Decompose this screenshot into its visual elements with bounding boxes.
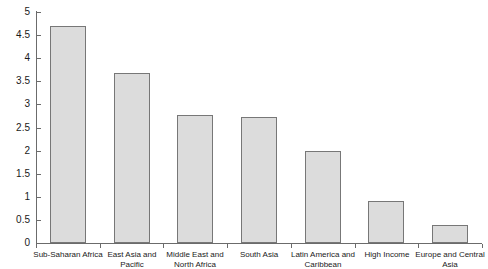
bar	[368, 201, 404, 243]
x-axis-category-label: High Income	[351, 250, 423, 260]
x-axis-category-label: Latin America and Caribbean	[287, 250, 359, 269]
bar	[305, 151, 341, 243]
y-axis-tick	[37, 81, 41, 82]
y-axis-tick	[37, 243, 41, 244]
y-axis-tick	[37, 104, 41, 105]
x-axis-category-label: East Asia and Pacific	[96, 250, 168, 269]
y-axis-tick	[37, 174, 41, 175]
x-axis-tick	[482, 244, 483, 248]
bar	[177, 115, 213, 243]
x-axis-tick	[355, 244, 356, 248]
x-axis-tick	[227, 244, 228, 248]
y-axis-tick-label: 1.5	[0, 169, 30, 179]
y-axis-tick-label: 3	[0, 99, 30, 109]
y-axis-tick-label: 0	[0, 238, 30, 248]
x-axis-category-label: South Asia	[223, 250, 295, 260]
y-axis-tick-label: 3.5	[0, 76, 30, 86]
x-axis-tick	[36, 244, 37, 248]
bar	[50, 26, 86, 243]
y-axis-tick-label: 0.5	[0, 215, 30, 225]
y-axis-tick	[37, 151, 41, 152]
y-axis-tick-label: 5	[0, 7, 30, 17]
bar	[432, 225, 468, 243]
x-axis-tick	[100, 244, 101, 248]
y-axis-tick	[37, 128, 41, 129]
bar-chart: 00.511.522.533.544.55 Sub-Saharan Africa…	[0, 0, 488, 269]
y-axis-tick	[37, 197, 41, 198]
x-axis-category-label: Europe and Central Asia	[414, 250, 486, 269]
y-axis-tick	[37, 58, 41, 59]
bar	[241, 117, 277, 243]
y-axis-tick-label: 4	[0, 53, 30, 63]
y-axis-tick-label: 2	[0, 146, 30, 156]
y-axis-tick	[37, 12, 41, 13]
x-axis-tick	[291, 244, 292, 248]
bar	[114, 73, 150, 243]
y-axis-tick	[37, 220, 41, 221]
y-axis-tick-label: 1	[0, 192, 30, 202]
x-axis-category-label: Sub-Saharan Africa	[32, 250, 104, 260]
y-axis-tick-label: 2.5	[0, 123, 30, 133]
x-axis-tick	[163, 244, 164, 248]
y-axis-tick	[37, 35, 41, 36]
x-axis-line	[36, 243, 482, 244]
x-axis-tick	[418, 244, 419, 248]
y-axis-tick-label: 4.5	[0, 30, 30, 40]
x-axis-category-label: Middle East and North Africa	[159, 250, 231, 269]
